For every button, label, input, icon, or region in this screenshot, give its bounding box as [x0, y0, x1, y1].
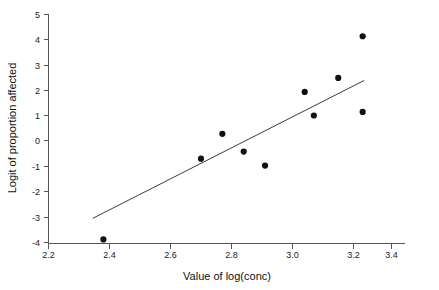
x-tick-label-2-8: 2.8 — [225, 250, 238, 260]
data-point — [335, 75, 341, 81]
y-tick-label-0: 0 — [35, 136, 40, 146]
data-point — [100, 236, 106, 242]
data-point — [360, 33, 366, 39]
data-point — [302, 89, 308, 95]
x-tick-label-3-4: 3.4 — [385, 250, 398, 260]
data-point — [241, 148, 247, 154]
data-point — [360, 109, 366, 115]
x-axis-tick-labels: 2.2 2.4 2.6 2.8 3.0 3.2 3.4 — [42, 250, 398, 260]
x-tick-label-2-6: 2.6 — [164, 250, 177, 260]
y-tick-label-neg4: -4 — [32, 238, 40, 248]
y-tick-label-2: 2 — [35, 86, 40, 96]
data-point — [198, 156, 204, 162]
data-point — [311, 112, 317, 118]
x-tick-label-2-2: 2.2 — [42, 250, 55, 260]
y-axis-tick-labels: 5 4 3 2 1 0 -1 -2 -3 -4 — [32, 10, 40, 248]
y-tick-label-3: 3 — [35, 61, 40, 71]
x-axis-title: Value of log(conc) — [183, 270, 271, 282]
plot-canvas: 5 4 3 2 1 0 -1 -2 -3 -4 2.2 2.4 2.6 2.8 — [0, 0, 439, 290]
x-tick-label-3-2: 3.2 — [347, 250, 360, 260]
y-tick-label-neg2: -2 — [32, 187, 40, 197]
x-tick-label-3-0: 3.0 — [286, 250, 299, 260]
y-tick-label-4: 4 — [35, 35, 40, 45]
scatter-plot-figure: 5 4 3 2 1 0 -1 -2 -3 -4 2.2 2.4 2.6 2.8 — [0, 0, 439, 290]
y-axis-ticks — [44, 15, 49, 243]
y-tick-label-neg1: -1 — [32, 162, 40, 172]
y-axis-title: Logit of proportion affected — [6, 63, 18, 194]
x-tick-label-2-4: 2.4 — [103, 250, 116, 260]
data-point-group — [100, 33, 365, 242]
x-axis-ticks — [49, 244, 392, 249]
y-tick-label-5: 5 — [35, 10, 40, 20]
regression-fit-line — [93, 80, 364, 218]
data-point — [219, 131, 225, 137]
y-tick-label-neg3: -3 — [32, 213, 40, 223]
data-point — [262, 162, 268, 168]
y-tick-label-1: 1 — [35, 111, 40, 121]
